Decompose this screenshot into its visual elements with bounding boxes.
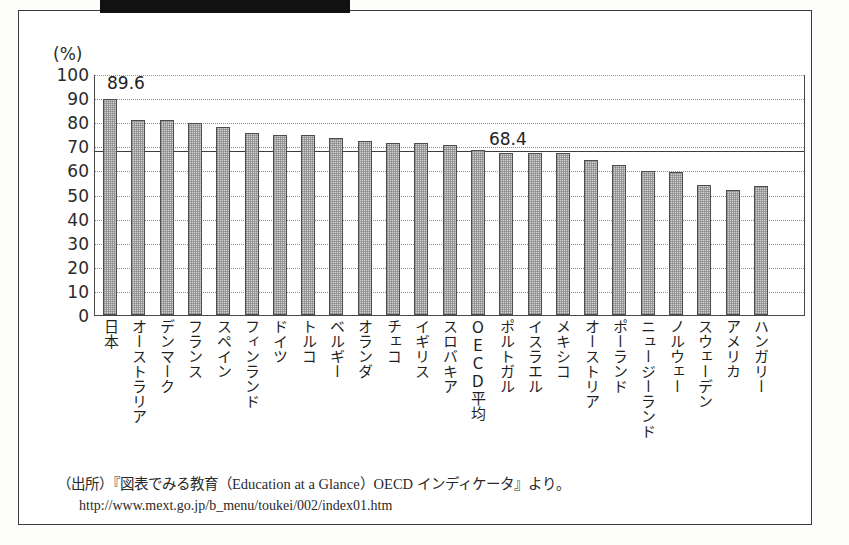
x-axis-category-label: ドイツ [271, 319, 288, 364]
bar [301, 135, 315, 316]
x-axis-category-label: アメリカ [724, 319, 741, 379]
footnote: （出所）『図表でみる教育（Education at a Glance）OECD … [57, 473, 787, 517]
y-axis-tick-label: 80 [43, 113, 89, 133]
y-axis-unit-label: (%) [53, 44, 82, 64]
bar [414, 143, 428, 315]
y-axis-tick-label: 10 [43, 282, 89, 302]
figure-frame: (%) 1009080706050403020100 89.668.4 日本オー… [18, 10, 812, 525]
x-axis-category-label: イギリス [412, 319, 429, 379]
gridline [95, 75, 804, 76]
bar [329, 138, 343, 315]
y-axis-tick-label: 50 [43, 186, 89, 206]
bar [386, 143, 400, 315]
x-axis-category-label: オーストラリア [129, 319, 146, 424]
x-axis-category-label: トルコ [299, 319, 316, 364]
y-axis-tick-label: 30 [43, 234, 89, 254]
x-axis-category-label: ニュージーランド [639, 319, 656, 439]
bar-value-label: 68.4 [489, 129, 527, 149]
x-axis-category-label: オランダ [356, 319, 373, 379]
x-axis-category-label: チェコ [384, 319, 401, 364]
title-band [100, 0, 350, 13]
bar-value-label: 89.6 [107, 73, 145, 93]
bar [273, 135, 287, 316]
x-axis-category-label: スロバキア [441, 319, 458, 394]
y-axis-tick-label: 90 [43, 89, 89, 109]
bar [245, 133, 259, 315]
x-axis-category-label: デンマーク [158, 319, 175, 394]
x-axis-category-label: 日本 [101, 319, 118, 349]
x-axis-category-labels: 日本オーストラリアデンマークフランススペインフィンランドドイツトルコベルギーオラ… [94, 319, 805, 469]
plot-inner: 89.668.4 [95, 75, 804, 315]
y-axis-tick-labels: 1009080706050403020100 [39, 75, 89, 316]
bar [669, 172, 683, 315]
x-axis-category-label: イスラエル [526, 319, 543, 394]
bar [528, 153, 542, 315]
x-axis-category-label: オーストリア [582, 319, 599, 409]
bar [471, 150, 485, 315]
x-axis-category-label: ポルトガル [497, 319, 514, 394]
plot-area: 89.668.4 [94, 75, 805, 316]
x-axis-category-label: フランス [186, 319, 203, 379]
x-axis-category-label: OECD平均 [469, 319, 486, 421]
x-axis-category-label: ポーランド [610, 319, 627, 394]
bar [641, 171, 655, 315]
y-axis-tick-label: 40 [43, 210, 89, 230]
x-axis-category-label: ノルウェー [667, 319, 684, 394]
bar [584, 160, 598, 315]
y-axis-tick-label: 60 [43, 161, 89, 181]
bar [216, 127, 230, 315]
x-axis-category-label: スウェーデン [695, 319, 712, 409]
bar [160, 120, 174, 315]
bar [726, 190, 740, 315]
bar [754, 186, 768, 315]
bar [499, 153, 513, 315]
x-axis-category-label: ベルギー [327, 319, 344, 379]
x-axis-category-label: スペイン [214, 319, 231, 379]
x-axis-category-label: メキシコ [554, 319, 571, 379]
bar [188, 123, 202, 315]
bar [103, 99, 117, 315]
bar [697, 185, 711, 315]
y-axis-tick-label: 100 [43, 65, 89, 85]
title-ghost-text [360, 0, 790, 11]
bar [612, 165, 626, 315]
footnote-url-line: http://www.mext.go.jp/b_menu/toukei/002/… [57, 495, 787, 517]
bar [131, 120, 145, 315]
y-axis-tick-label: 70 [43, 137, 89, 157]
y-axis-tick-label: 20 [43, 258, 89, 278]
footnote-source-line: （出所）『図表でみる教育（Education at a Glance）OECD … [57, 473, 787, 495]
x-axis-category-label: フィンランド [243, 319, 260, 409]
x-axis-category-label: ハンガリー [752, 319, 769, 394]
gridline [95, 99, 804, 100]
y-axis-tick-label: 0 [43, 306, 89, 326]
bar [358, 141, 372, 315]
bar [443, 145, 457, 315]
bar [556, 153, 570, 315]
